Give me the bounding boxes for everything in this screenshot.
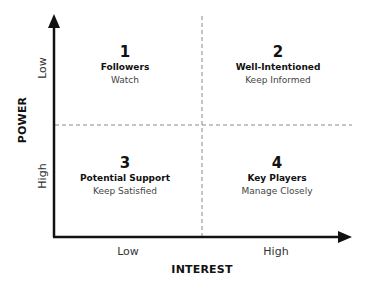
x-axis-low-label: Low — [117, 245, 139, 258]
quadrant-number: 1 — [55, 43, 195, 61]
quadrant-action: Manage Closely — [207, 185, 347, 198]
quadrant-1: 1 Followers Watch — [55, 43, 195, 87]
quadrant-title: Potential Support — [55, 172, 195, 185]
quadrant-number: 3 — [55, 154, 195, 172]
x-axis-arrow-icon — [338, 231, 352, 243]
quadrant-action: Watch — [55, 74, 195, 87]
y-axis-low-label: Low — [36, 57, 49, 79]
quadrant-title: Key Players — [207, 172, 347, 185]
y-axis-title: POWER — [16, 97, 29, 144]
quadrant-title: Followers — [55, 61, 195, 74]
quadrant-3: 3 Potential Support Keep Satisfied — [55, 154, 195, 198]
quadrant-number: 4 — [207, 154, 347, 172]
y-axis-arrow-icon — [48, 14, 60, 28]
quadrant-4: 4 Key Players Manage Closely — [207, 154, 347, 198]
x-axis-title: INTEREST — [171, 263, 232, 276]
x-axis-high-label: High — [263, 245, 288, 258]
quadrant-title: Well-Intentioned — [208, 61, 348, 74]
quadrant-number: 2 — [208, 43, 348, 61]
y-axis-high-label: High — [36, 163, 49, 188]
quadrant-action: Keep Informed — [208, 74, 348, 87]
quadrant-2: 2 Well-Intentioned Keep Informed — [208, 43, 348, 87]
quadrant-action: Keep Satisfied — [55, 185, 195, 198]
